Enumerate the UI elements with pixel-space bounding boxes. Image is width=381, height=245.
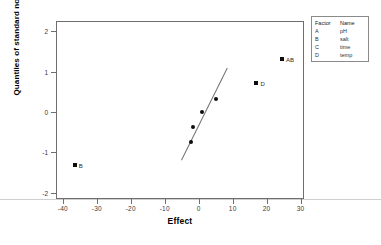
y-tick-label: 2 <box>44 28 48 35</box>
y-tick-label: 1 <box>44 68 48 75</box>
x-tick-label: 30 <box>297 205 305 212</box>
y-tick-label: 0 <box>44 109 48 116</box>
legend-header-name: Name <box>340 19 365 27</box>
data-point-label: D <box>260 81 264 87</box>
legend-factor: C <box>315 43 340 51</box>
reference-line-y-minus-2 <box>0 199 381 200</box>
x-tick-label: 0 <box>197 205 201 212</box>
data-point <box>254 81 258 85</box>
chart-root: -40-30-20-100102030 210-1-2 BDAB Effect … <box>0 0 381 245</box>
x-tick <box>131 199 132 204</box>
x-tick-label: -20 <box>126 205 136 212</box>
data-point-label: AB <box>286 57 294 63</box>
x-axis-title: Effect <box>56 216 304 226</box>
x-tick <box>267 199 268 204</box>
legend-row: Bsalt <box>315 35 365 43</box>
y-axis-title: Quantiles of standard normal <box>12 0 21 115</box>
x-tick <box>63 199 64 204</box>
legend-name: temp <box>340 51 365 59</box>
data-point <box>191 125 195 129</box>
legend-name: pH <box>340 27 365 35</box>
data-point <box>214 97 218 101</box>
legend-name: salt <box>340 35 365 43</box>
data-point <box>189 140 193 144</box>
legend-factor: B <box>315 35 340 43</box>
legend-row: Ctime <box>315 43 365 51</box>
x-tick-label: 20 <box>263 205 271 212</box>
y-tick <box>51 72 56 73</box>
legend-rows: ApHBsaltCtimeDtemp <box>315 27 365 59</box>
x-tick <box>301 199 302 204</box>
y-tick-label: -1 <box>42 149 48 156</box>
data-point <box>200 110 204 114</box>
x-tick <box>233 199 234 204</box>
factor-legend: Factor Name ApHBsaltCtimeDtemp <box>311 16 369 62</box>
legend-factor: D <box>315 51 340 59</box>
legend-row: Dtemp <box>315 51 365 59</box>
legend-header-factor: Factor <box>315 19 340 27</box>
y-tick <box>51 112 56 113</box>
y-tick <box>51 193 56 194</box>
legend-factor: A <box>315 27 340 35</box>
x-tick-label: -30 <box>92 205 102 212</box>
x-tick-label: 10 <box>229 205 237 212</box>
x-tick-label: -40 <box>58 205 68 212</box>
data-point-label: B <box>79 163 83 169</box>
y-tick <box>51 152 56 153</box>
x-tick <box>199 199 200 204</box>
x-tick <box>97 199 98 204</box>
legend-row: ApH <box>315 27 365 35</box>
legend-header-row: Factor Name <box>315 19 365 27</box>
x-tick <box>165 199 166 204</box>
x-tick-label: -10 <box>160 205 170 212</box>
y-tick <box>51 31 56 32</box>
y-tick-label: -2 <box>42 189 48 196</box>
legend-name: time <box>340 43 365 51</box>
data-point <box>73 163 77 167</box>
plot-area <box>56 21 304 199</box>
data-point <box>280 57 284 61</box>
